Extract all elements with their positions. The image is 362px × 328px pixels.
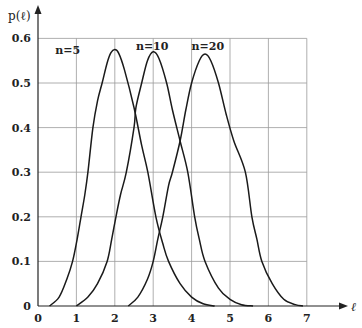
y-tick-label: 0.4 bbox=[12, 122, 31, 135]
x-tick-label: 1 bbox=[73, 312, 81, 325]
x-tick-label: 2 bbox=[111, 312, 119, 325]
y-tick-label: 0.3 bbox=[12, 166, 31, 179]
probability-chart: ℓ p(ℓ) 0123456700.10.20.30.40.50.6 n=5n=… bbox=[0, 0, 362, 328]
x-tick-label: 3 bbox=[149, 312, 157, 325]
curve-n-20 bbox=[128, 54, 303, 306]
y-tick-label: 0 bbox=[23, 300, 31, 313]
x-axis-label: ℓ bbox=[351, 300, 356, 314]
x-tick-label: 5 bbox=[226, 312, 234, 325]
x-axis-arrow-icon bbox=[339, 303, 348, 310]
series-label: n=20 bbox=[192, 40, 225, 53]
y-axis-arrow-icon bbox=[35, 5, 42, 14]
y-axis-label: p(ℓ) bbox=[8, 9, 31, 23]
x-tick-label: 4 bbox=[188, 312, 196, 325]
x-tick-label: 0 bbox=[34, 312, 42, 325]
series-label: n=5 bbox=[55, 44, 80, 57]
y-tick-label: 0.6 bbox=[12, 32, 31, 45]
curve-n-10 bbox=[76, 52, 253, 306]
curves bbox=[50, 50, 303, 306]
y-tick-label: 0.2 bbox=[12, 211, 31, 224]
y-tick-label: 0.5 bbox=[12, 77, 31, 90]
tick-labels: 0123456700.10.20.30.40.50.6 bbox=[12, 32, 311, 325]
x-tick-label: 6 bbox=[265, 312, 273, 325]
series-labels: n=5n=10n=20 bbox=[55, 40, 224, 57]
x-tick-label: 7 bbox=[303, 312, 311, 325]
series-label: n=10 bbox=[136, 40, 169, 53]
y-tick-label: 0.1 bbox=[12, 255, 31, 268]
